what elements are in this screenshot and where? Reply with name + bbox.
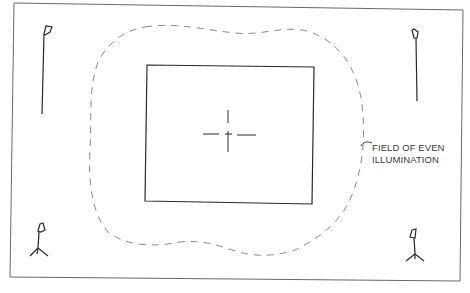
field-label-line2: ILLUMINATION bbox=[372, 154, 439, 166]
lamp-bottom-left-icon bbox=[30, 223, 48, 256]
field-of-illumination-boundary bbox=[90, 25, 364, 255]
center-crosshair-icon bbox=[203, 110, 256, 152]
field-label-line1: FIELD OF EVEN bbox=[372, 142, 445, 154]
lamp-top-left-icon bbox=[42, 26, 52, 114]
lamp-top-right-icon bbox=[412, 29, 418, 101]
lamp-bottom-right-icon bbox=[406, 229, 424, 261]
